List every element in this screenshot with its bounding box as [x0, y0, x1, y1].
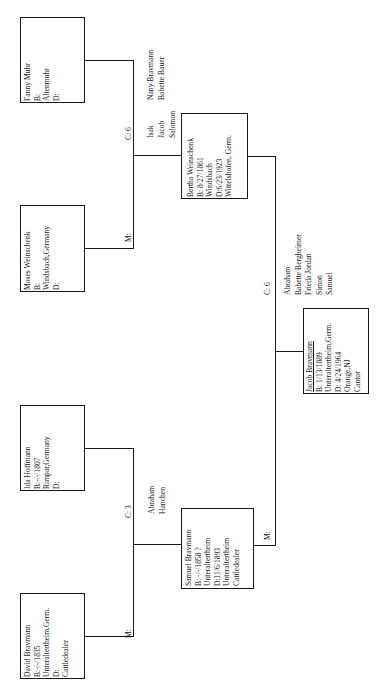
person-birth-place: Unteraltertheim	[203, 530, 213, 586]
person-name: Jacob Bravmann	[305, 323, 315, 392]
sibling-name: Salomon	[167, 111, 178, 138]
person-place: Windsbach,Germany	[42, 226, 52, 290]
connector-to-samuel	[133, 544, 181, 545]
connector-fanny	[84, 60, 134, 61]
connector-moses	[84, 248, 134, 249]
spine-ida-david	[133, 448, 134, 637]
connector-bertha	[247, 156, 276, 157]
sibling-name: Isak	[145, 111, 156, 138]
sibling-name: Simon	[315, 234, 326, 295]
sibling-name: Babette Bauer	[156, 50, 167, 100]
person-occupation: Cantor	[353, 323, 363, 392]
siblings-samuel: Abraham Hanchen	[146, 486, 168, 514]
connector-to-bertha	[133, 155, 181, 156]
person-death-place: Wittelshofen, Germ.	[224, 135, 234, 197]
sibling-name: Abraham	[146, 486, 157, 514]
person-name: Fanny Muhr	[23, 63, 33, 101]
person-place: Altenmuhr	[42, 63, 52, 101]
person-place: Rimpar,Germany	[42, 436, 52, 489]
siblings-bertha-col1: Isak Jacob Salomon	[145, 111, 178, 138]
person-death: D:	[52, 608, 62, 677]
children-count-ida-david: C: 3	[124, 505, 133, 518]
person-birth: B: 1/13/1889	[315, 323, 325, 392]
sibling-name: Hanchen	[157, 486, 168, 514]
person-details-bertha-weinschenk: Bertha Weinschenk B: 8/27/1861 Windsbach…	[186, 135, 234, 197]
person-occupation: Cattledealer	[61, 608, 71, 677]
person-death: D:11/6/1893	[213, 530, 223, 586]
person-death: D:	[52, 436, 62, 489]
person-name: Moses Weinschenk	[23, 226, 33, 290]
connector-samuel	[253, 545, 276, 546]
person-birth: B:-/-/1807	[33, 436, 43, 489]
person-name: David Bravmann	[23, 608, 33, 677]
person-birth: B:-/-/1835	[33, 608, 43, 677]
person-death: D:6/23/1923	[215, 135, 225, 197]
siblings-bertha-col2: Nany Bravmann Babette Bauer	[145, 50, 167, 100]
sibling-name: Abraham	[283, 234, 294, 295]
person-occupation: Cattledealer	[232, 530, 242, 586]
children-count-bertha-samuel: C: 6	[263, 282, 272, 295]
sibling-name: Frieda Jordan	[304, 234, 315, 295]
person-death: D:	[52, 63, 62, 101]
person-death-place: Unteraltertheim	[222, 530, 232, 586]
person-birth: B: -/-/1858 ?	[194, 530, 204, 586]
person-birth: B:	[33, 226, 43, 290]
person-birth: B: 8/27/1861	[196, 135, 206, 197]
person-place: Unteraltertheim,Germ.	[42, 608, 52, 677]
sibling-name: Babette Bergheimer	[294, 234, 305, 295]
person-birth-place: Windsbach	[205, 135, 215, 197]
marriage-label-fanny-moses: M:	[124, 233, 133, 242]
person-details-fanny-muhr: Fanny Muhr B: Altenmuhr D:	[23, 63, 61, 101]
sibling-name: Samuel	[325, 234, 336, 295]
person-details-jacob-bravmann: Jacob Bravmann B: 1/13/1889 Unteralterth…	[305, 323, 363, 392]
marriage-label-ida-david: M:	[124, 629, 133, 638]
marriage-label-bertha-samuel: M:	[263, 531, 272, 540]
person-birth: B:	[33, 63, 43, 101]
children-count-fanny-moses: C: 6	[124, 127, 133, 140]
person-death: D: 4/24/1964	[334, 323, 344, 392]
connector-ida	[84, 448, 134, 449]
person-death: D:	[52, 226, 62, 290]
connector-to-jacob	[275, 351, 303, 352]
person-name: Samuel Bravmann	[184, 530, 194, 586]
sibling-name: Nany Bravmann	[145, 50, 156, 100]
person-details-moses-weinschenk: Moses Weinschenk B: Windsbach,Germany D:	[23, 226, 61, 290]
person-death-place: Orange,NJ	[343, 323, 353, 392]
siblings-jacob: Abraham Babette Bergheimer Frieda Jordan…	[283, 234, 336, 295]
person-birth-place: Unteraltertheim,Germ.	[324, 323, 334, 392]
person-details-ida-hoffmann: Ida Hoffmann B:-/-/1807 Rimpar,Germany D…	[23, 436, 61, 489]
sibling-name: Jacob	[156, 111, 167, 138]
person-details-samuel-bravmann: Samuel Bravmann B: -/-/1858 ? Unteralter…	[184, 530, 242, 586]
person-name: Bertha Weinschenk	[186, 135, 196, 197]
person-name: Ida Hoffmann	[23, 436, 33, 489]
person-details-david-bravmann: David Bravmann B:-/-/1835 Unteralterthei…	[23, 608, 71, 677]
